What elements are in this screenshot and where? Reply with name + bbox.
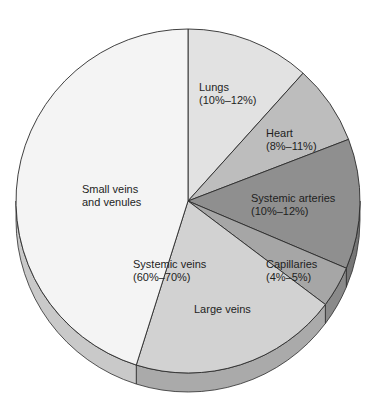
label-systemic-arteries-range: (10%–12%) bbox=[251, 205, 335, 218]
label-heart: Heart (8%–11%) bbox=[266, 127, 317, 153]
label-systemic-veins-name: Systemic veins bbox=[133, 258, 206, 271]
label-lungs: Lungs (10%–12%) bbox=[199, 81, 256, 107]
label-heart-range: (8%–11%) bbox=[266, 140, 317, 153]
label-lungs-name: Lungs bbox=[199, 81, 256, 94]
label-small-veins-line2: and venules bbox=[82, 196, 141, 209]
label-lungs-range: (10%–12%) bbox=[199, 94, 256, 107]
label-large-veins-name: Large veins bbox=[194, 303, 251, 316]
label-capillaries-name: Capillaries bbox=[266, 258, 317, 271]
label-systemic-arteries: Systemic arteries (10%–12%) bbox=[251, 192, 335, 218]
label-small-veins-line1: Small veins bbox=[82, 183, 141, 196]
label-systemic-veins-range: (60%–70%) bbox=[133, 271, 206, 284]
label-capillaries: Capillaries (4%–5%) bbox=[266, 258, 317, 284]
label-large-veins: Large veins bbox=[194, 303, 251, 316]
label-small-veins-venules: Small veins and venules bbox=[82, 183, 141, 209]
label-capillaries-range: (4%–5%) bbox=[266, 271, 317, 284]
label-systemic-veins: Systemic veins (60%–70%) bbox=[133, 258, 206, 284]
label-heart-name: Heart bbox=[266, 127, 317, 140]
label-systemic-arteries-name: Systemic arteries bbox=[251, 192, 335, 205]
